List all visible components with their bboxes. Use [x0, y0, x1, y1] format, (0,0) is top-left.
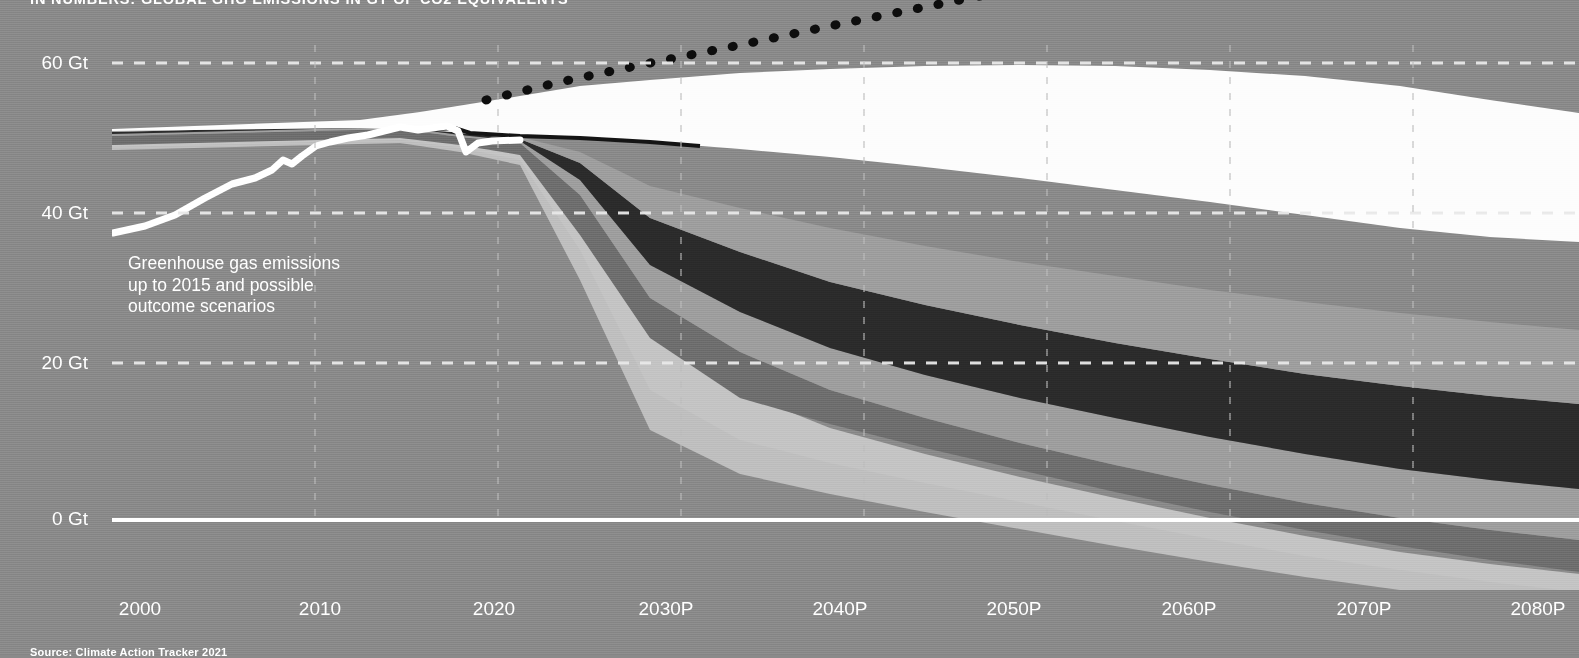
annotation-line-1: Greenhouse gas emissions: [128, 253, 388, 275]
x-axis-tick-2050p: 2050P: [987, 598, 1042, 620]
x-axis-tick-2000: 2000: [119, 598, 161, 620]
chart-title: IN NUMBERS: GLOBAL GHG EMISSIONS IN GT O…: [30, 0, 569, 7]
source-note: Source: Climate Action Tracker 2021: [30, 646, 227, 658]
x-axis-tick-2020: 2020: [473, 598, 515, 620]
annotation-line-3: outcome scenarios: [128, 296, 388, 318]
x-axis-tick-2030p: 2030P: [639, 598, 694, 620]
x-axis-tick-2060p: 2060P: [1162, 598, 1217, 620]
band-pledges-and-targets: [112, 65, 1579, 242]
y-axis-tick-0gt: 0 Gt: [8, 508, 88, 530]
y-axis-tick-20gt: 20 Gt: [8, 352, 88, 374]
y-axis-tick-40gt: 40 Gt: [8, 202, 88, 224]
chart-annotation: Greenhouse gas emissions up to 2015 and …: [128, 253, 388, 318]
x-axis-tick-2080p: 2080P: [1511, 598, 1566, 620]
x-axis-tick-2040p: 2040P: [813, 598, 868, 620]
annotation-line-2: up to 2015 and possible: [128, 275, 388, 297]
x-axis-tick-2010: 2010: [299, 598, 341, 620]
x-axis-tick-2070p: 2070P: [1337, 598, 1392, 620]
y-axis-tick-60gt: 60 Gt: [8, 52, 88, 74]
